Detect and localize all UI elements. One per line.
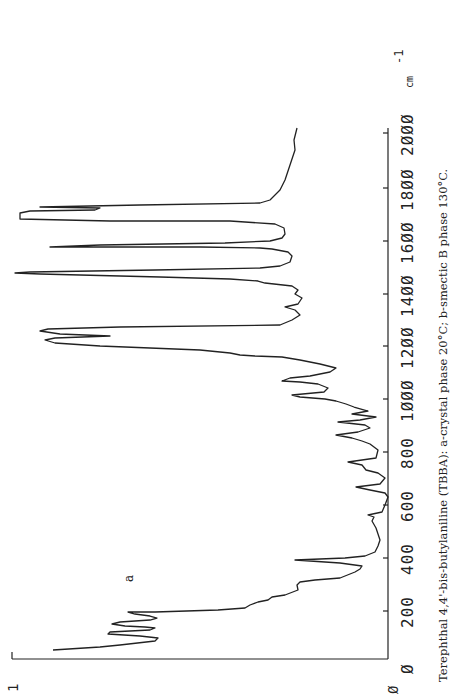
y-tick-label-one: 1	[5, 684, 21, 692]
x-tick-label-600: 600	[398, 490, 417, 522]
x-tick-label-1200: 12ØØ	[398, 326, 417, 369]
x-tick-label-0: Ø	[398, 663, 417, 674]
x-tick-label-1800: 18ØØ	[398, 168, 417, 211]
x-tick-label-400: 400	[398, 543, 417, 575]
y-tick-label-zero: Ø	[385, 686, 401, 694]
x-unit-base: cm	[404, 76, 415, 88]
spectrum-trace-a	[15, 128, 388, 650]
figure-caption: Terephthal 4,4'-bis-butylaniline (TBBA):…	[436, 169, 450, 682]
series-label-a: a	[122, 575, 136, 582]
x-tick-label-2000: 2ØØØ	[398, 113, 417, 156]
wavenumber-ticks	[383, 133, 388, 611]
x-tick-label-1000: 1ØØØ	[398, 379, 417, 422]
x-unit-exp: -1	[392, 50, 406, 64]
x-tick-label-200: 200	[398, 596, 417, 628]
x-tick-label-1400: 14ØØ	[398, 274, 417, 317]
x-tick-label-800: 800	[398, 437, 417, 469]
x-tick-label-1600: 16ØØ	[398, 221, 417, 264]
spectrum-plot	[0, 0, 456, 694]
